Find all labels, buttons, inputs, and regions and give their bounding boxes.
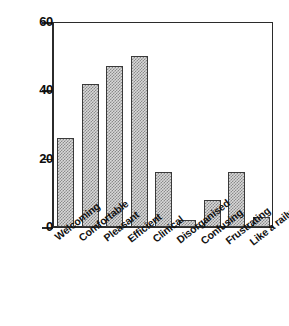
y-tick-label: 40 bbox=[23, 82, 53, 97]
y-tick-label: 60 bbox=[23, 14, 53, 29]
bar-chart: 60 40 20 0 WelcomingComfortablePleasantE… bbox=[0, 0, 289, 326]
y-tick-label: 20 bbox=[23, 151, 53, 166]
bar bbox=[131, 56, 148, 227]
x-axis-labels: WelcomingComfortablePleasantEfficientCli… bbox=[0, 227, 289, 326]
bar bbox=[57, 138, 74, 227]
bar-series bbox=[54, 22, 274, 227]
